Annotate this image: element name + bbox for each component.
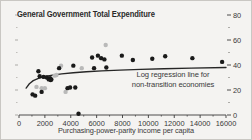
axis-layer xyxy=(15,15,231,118)
x-tick-label: 8000 xyxy=(114,119,130,128)
x-tick-label: 4000 xyxy=(63,119,79,128)
annotation-line-2: non-transition economies xyxy=(119,80,227,90)
data-point xyxy=(102,57,106,61)
data-point xyxy=(150,57,154,61)
data-point xyxy=(90,55,94,59)
x-tick-label: 12000 xyxy=(164,119,185,128)
data-point xyxy=(131,58,135,62)
data-point xyxy=(71,63,75,67)
data-point xyxy=(36,69,40,73)
y-tick-label: 40 xyxy=(233,61,241,70)
x-tick-label: 0 xyxy=(17,119,21,128)
data-point xyxy=(39,90,43,94)
data-point xyxy=(49,77,53,81)
data-point xyxy=(103,43,107,47)
y-tick-label: 20 xyxy=(233,86,241,95)
data-point xyxy=(80,66,84,70)
data-point xyxy=(54,73,58,77)
y-tick-label: 80 xyxy=(233,11,241,20)
y-tick-label: 0 xyxy=(233,111,237,120)
data-point xyxy=(68,85,72,89)
data-point xyxy=(92,66,96,70)
data-point xyxy=(76,112,80,116)
y-tick-label: 60 xyxy=(233,36,241,45)
regression-annotation: Log regression line for non-transition e… xyxy=(119,70,227,90)
data-point xyxy=(104,65,108,69)
data-point xyxy=(120,53,124,57)
data-point xyxy=(43,86,47,90)
data-point xyxy=(220,60,224,64)
data-point xyxy=(63,90,67,94)
chart-title: General Government Total Expenditure xyxy=(17,10,155,19)
data-point xyxy=(38,74,42,78)
data-point xyxy=(33,93,37,97)
data-point xyxy=(190,56,194,60)
x-tick-label: 2000 xyxy=(37,119,53,128)
data-point xyxy=(163,54,167,58)
x-tick-label: 14000 xyxy=(190,119,211,128)
x-tick-label: 10000 xyxy=(138,119,159,128)
x-tick-label: 16000 xyxy=(216,119,237,128)
data-point xyxy=(73,85,77,89)
data-point xyxy=(34,85,38,89)
x-tick-label: 6000 xyxy=(88,119,104,128)
annotation-line-1: Log regression line for xyxy=(119,70,227,80)
data-point xyxy=(57,66,61,70)
chart-figure: General Government Total Expenditure Log… xyxy=(0,0,252,140)
